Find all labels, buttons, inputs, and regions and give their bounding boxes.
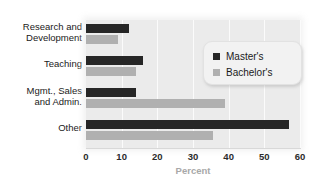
category-label-line: and Admin. [0,96,82,108]
category-label: Other [0,122,82,134]
x-axis-title: Percent [86,165,300,176]
category-label-line: Teaching [0,58,82,70]
x-axis-line [86,148,301,149]
x-tick-label: 60 [295,151,306,162]
bar-master-s [86,88,136,97]
category-label-line: Other [0,122,82,134]
legend-entry: Master's [213,51,263,62]
legend-label: Bachelor's [226,67,272,78]
x-tick-label: 20 [152,151,163,162]
category-label-line: Mgmt., Sales [0,85,82,97]
legend-swatch-icon [213,53,220,60]
category-label-line: Research and [0,21,82,33]
bar-master-s [86,120,289,129]
chart-figure: Research andDevelopmentTeachingMgmt., Sa… [0,0,317,187]
bar-group [86,84,300,116]
chart-legend: Master'sBachelor's [203,41,302,85]
bar-group [86,116,300,148]
bar-bachelor-s [86,131,213,140]
x-tick-label: 30 [188,151,199,162]
bar-master-s [86,24,129,33]
category-label: Teaching [0,58,82,70]
legend-swatch-icon [213,69,220,76]
x-tick-label: 10 [116,151,127,162]
legend-label: Master's [226,51,263,62]
gridline [300,20,301,148]
bar-bachelor-s [86,99,225,108]
bar-master-s [86,56,143,65]
bar-bachelor-s [86,67,136,76]
x-tick-label: 0 [83,151,88,162]
category-label-line: Development [0,32,82,44]
category-label: Mgmt., Salesand Admin. [0,85,82,108]
bar-bachelor-s [86,35,118,44]
category-axis-labels: Research andDevelopmentTeachingMgmt., Sa… [0,20,82,148]
x-tick-label: 50 [259,151,270,162]
category-label: Research andDevelopment [0,21,82,44]
x-tick-label: 40 [223,151,234,162]
legend-entry: Bachelor's [213,67,272,78]
